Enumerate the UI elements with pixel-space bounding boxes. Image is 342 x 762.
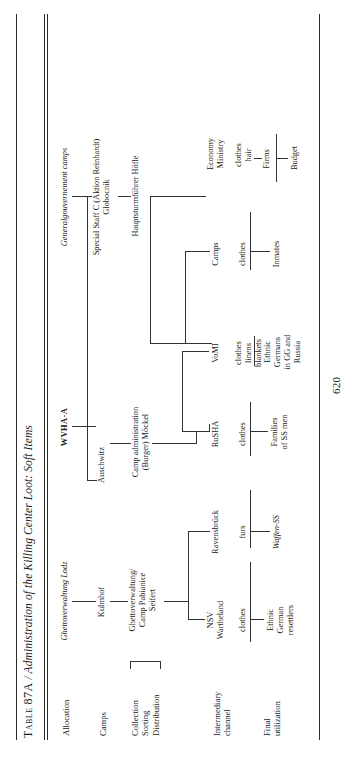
connector-to-camps xyxy=(185,251,210,252)
node-firms: Firms xyxy=(262,122,272,196)
connector-campadmin-drop xyxy=(152,443,196,444)
connector-firms-to-budget xyxy=(276,158,288,159)
title-separator: / xyxy=(22,676,34,679)
node-ravensbrueck: Ravensbrück xyxy=(211,484,221,580)
line-ravensbrueck-goods-run xyxy=(250,490,251,548)
node-kulmhof: Kulmhof xyxy=(97,552,107,652)
node-ghettoverwaltung-pabianice: Ghettoverwaltung/ Camp Pabianice Seifert xyxy=(128,520,158,680)
node-ethnic-german-resettlers: Ethnic German resettlers xyxy=(266,574,296,666)
node-rusha: RuSHA xyxy=(211,396,221,472)
connector-wvha-auschwitz xyxy=(72,426,96,427)
connector-to-ravensbrueck xyxy=(188,531,210,532)
connector-kulmhof-pabianice xyxy=(110,601,128,602)
special-staff-c-suffix: ) xyxy=(92,139,101,142)
connector-pabianice-drop xyxy=(164,601,188,602)
connector-wvha-span xyxy=(87,197,88,481)
connector-auschwitz-campadmin xyxy=(110,443,131,444)
node-nsv-wartheland: NSV Wartheland xyxy=(206,574,226,666)
special-staff-c-aktion: Aktion Reinhardt xyxy=(92,141,101,199)
rule-inner-a xyxy=(44,14,45,740)
connector-wvha-right-drop xyxy=(83,196,92,197)
node-economy-ministry: Economy Ministry xyxy=(206,106,226,202)
page-number: 620 xyxy=(330,377,342,394)
goods-camps: clothes xyxy=(238,214,248,294)
connector-rusha-tick xyxy=(209,424,210,432)
rule-top xyxy=(16,14,17,740)
connector-to-vomi xyxy=(182,351,209,352)
row-label-allocation: Allocation xyxy=(62,700,72,736)
connector-to-economy-ministry xyxy=(150,196,206,197)
connector-pabianice-span xyxy=(188,532,189,620)
special-staff-c-globocnik: Globocnik xyxy=(102,94,112,300)
node-families-of-ss-men: Families of SS men xyxy=(270,390,290,474)
row-label-collection-sorting-distribution: Collection Sorting Distribution xyxy=(130,694,161,736)
goods-economy-ministry: clothes hair xyxy=(234,110,254,200)
connector-furs-to-waffenss xyxy=(250,531,270,532)
connector-wvha-left-drop xyxy=(87,480,97,481)
row-label-final-utilization: Final utilization xyxy=(262,701,283,736)
stub-bracket-bottom xyxy=(160,661,161,669)
connector-rusha-vomi-trunk xyxy=(182,431,210,432)
connector-to-nsv xyxy=(188,619,205,620)
node-waffen-ss: Waffen-SS xyxy=(272,488,282,576)
node-inmates: Inmates xyxy=(272,212,282,296)
node-ghettoverwaltung-lodz: Ghettoverwaltung Lodz xyxy=(60,536,70,666)
table-number: Table 87A xyxy=(21,683,35,738)
connector-specialstaff-hoefle xyxy=(118,196,131,197)
line-nsv-goods-run xyxy=(250,562,251,642)
line-rusha-goods-run xyxy=(250,402,251,456)
node-budget: Budget xyxy=(290,120,300,196)
row-label-camps: Camps xyxy=(99,712,109,736)
node-generalgouvernement-camps: Generalgouvernement camps xyxy=(60,102,70,292)
rule-bottom xyxy=(319,14,320,740)
node-ethnic-germans-gg-russia: Ethnic Germans in GG and Russia xyxy=(263,310,303,394)
connector-lodz-kulmhof xyxy=(72,601,96,602)
line-vomi-goods-run xyxy=(254,336,255,366)
special-staff-c-prefix: Special Staff C ( xyxy=(92,200,101,255)
line-firms-budget-run xyxy=(276,134,277,182)
connector-vomi-branch xyxy=(182,352,183,432)
table-title: Table 87A / Administration of the Killin… xyxy=(21,425,36,738)
row-label-intermediary-channel: Intermediary channel xyxy=(212,692,233,736)
goods-nsv: clothes xyxy=(238,578,248,662)
node-auschwitz: Auschwitz xyxy=(97,420,107,510)
node-special-staff-c: Special Staff C (Aktion Reinhardt) Globo… xyxy=(92,94,112,300)
goods-ravensbrueck: furs xyxy=(238,492,248,572)
connector-nsv-to-resettlers xyxy=(250,619,264,620)
connector-rusha-to-families xyxy=(250,431,268,432)
node-camps: Camps xyxy=(211,214,221,294)
connector-camps-to-inmates xyxy=(250,251,270,252)
node-camp-administration: Camp administration (Burger) Möckel xyxy=(131,362,151,522)
rule-inner-b xyxy=(47,14,48,740)
title-text: Administration of the Killing Center Loo… xyxy=(22,425,34,673)
connector-camps-branch xyxy=(185,252,186,344)
goods-vomi: clothes linens blankets xyxy=(234,316,264,390)
connector-campadmin-elbow xyxy=(196,432,197,444)
connector-economy-firms xyxy=(254,158,262,159)
node-wvha-a: WVHA-A xyxy=(60,392,70,462)
line-camps-goods-run xyxy=(250,212,251,270)
goods-rusha: clothes xyxy=(238,396,248,472)
node-vomi: VoMI xyxy=(211,316,221,390)
node-hauptsturmfuehrer-hoefle: Hauptsturmführer Höfle xyxy=(131,98,141,294)
connector-hoefle-span xyxy=(150,197,151,344)
connector-hoefle-trunk xyxy=(150,343,212,344)
